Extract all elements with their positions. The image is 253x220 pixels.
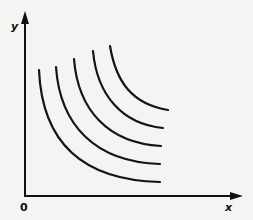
y-axis-label: y	[11, 20, 19, 33]
curve-2	[56, 67, 160, 164]
curve-1	[39, 70, 160, 182]
curve-5	[110, 46, 168, 110]
y-axis-arrow-icon	[21, 11, 29, 24]
diagram-canvas: y 0 x	[0, 0, 253, 220]
x-axis-arrow-icon	[230, 192, 243, 200]
x-axis-label: x	[224, 201, 233, 214]
origin-label: 0	[20, 201, 28, 214]
